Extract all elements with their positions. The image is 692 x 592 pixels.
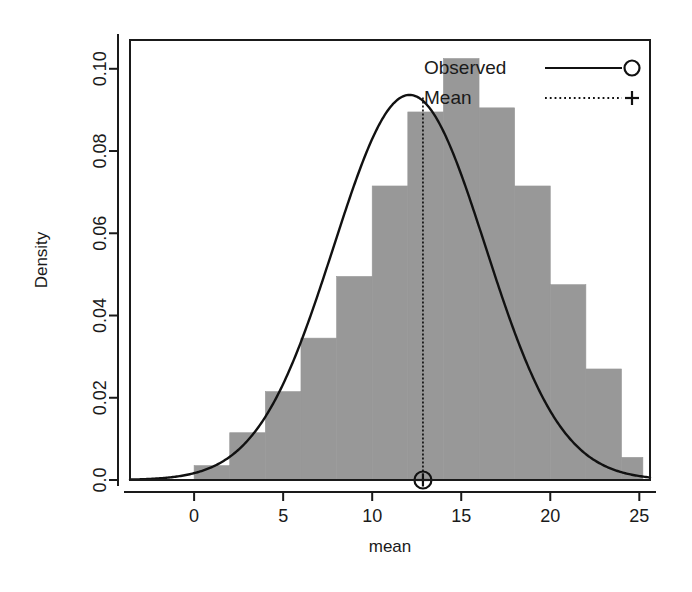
- x-axis-label: mean: [369, 537, 412, 556]
- x-tick-label: 15: [451, 506, 471, 526]
- x-tick-label: 20: [540, 506, 560, 526]
- histogram-bar: [337, 276, 373, 480]
- histogram-bar: [408, 112, 444, 480]
- chart-canvas: 05101520250.00.020.040.060.080.10 Observ…: [0, 0, 692, 592]
- y-tick-label: 0.0: [90, 467, 110, 492]
- y-tick-label: 0.08: [90, 134, 110, 169]
- legend-label[interactable]: Observed: [424, 57, 506, 78]
- y-tick-label: 0.10: [90, 51, 110, 86]
- histogram-bar: [372, 186, 408, 480]
- x-tick-label: 5: [278, 506, 288, 526]
- histogram-bar: [479, 108, 515, 480]
- histogram-bar: [301, 338, 337, 480]
- histogram-bar: [586, 369, 622, 480]
- y-tick-label: 0.02: [90, 380, 110, 415]
- histogram-bar: [265, 392, 301, 480]
- y-tick-label: 0.06: [90, 216, 110, 251]
- histogram-bar: [443, 59, 479, 480]
- y-tick-label: 0.04: [90, 298, 110, 333]
- legend-label[interactable]: Mean: [424, 87, 472, 108]
- density-histogram-figure: 05101520250.00.020.040.060.080.10 Observ…: [0, 0, 692, 592]
- x-tick-label: 10: [362, 506, 382, 526]
- histogram-bar: [515, 186, 551, 480]
- x-tick-label: 0: [189, 506, 199, 526]
- x-tick-label: 25: [629, 506, 649, 526]
- y-axis-label: Density: [32, 231, 51, 288]
